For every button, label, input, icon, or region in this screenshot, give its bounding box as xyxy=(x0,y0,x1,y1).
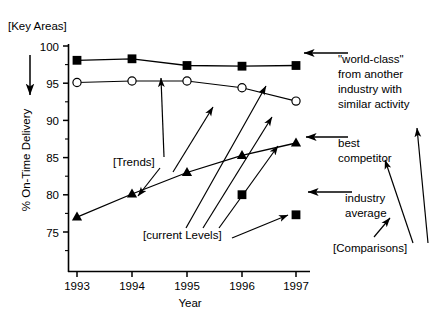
annotation-trends: [Trends] xyxy=(113,156,155,168)
annotation-industry-average: industry average xyxy=(345,192,387,219)
y-tick-label: 95 xyxy=(46,78,59,90)
series-world-class xyxy=(73,54,301,70)
series-line-best-competitor xyxy=(77,143,296,217)
data-point-marker xyxy=(73,78,81,86)
chart-svg: 100 95 90 85 80 75 1993 1994 1995 1996 1… xyxy=(0,0,439,314)
chart-figure: 100 95 90 85 80 75 1993 1994 1995 1996 1… xyxy=(0,0,439,314)
x-tick-labels: 1993 1994 1995 1996 1997 xyxy=(64,280,309,292)
data-point-marker xyxy=(183,77,191,85)
trends-arrow-up xyxy=(161,78,164,157)
annotation-key-areas: [Key Areas] xyxy=(8,20,67,32)
data-point-marker xyxy=(73,56,82,65)
x-tick-label: 1995 xyxy=(174,280,200,292)
data-point-marker xyxy=(292,210,301,219)
best-competitor-line-2: competitor xyxy=(338,152,392,164)
trends-arrow-down xyxy=(138,168,160,196)
y-tick-label: 85 xyxy=(46,152,59,164)
x-axis-title: Year xyxy=(178,297,201,309)
trends-arrow-right xyxy=(173,107,213,172)
annotation-best-competitor: best competitor xyxy=(338,137,392,164)
series-industry-average xyxy=(238,190,301,219)
industry-average-line-2: average xyxy=(345,207,387,219)
world-class-line-2: from another xyxy=(338,68,403,80)
y-tick-label: 75 xyxy=(46,227,59,239)
y-tick-labels: 100 95 90 85 80 75 xyxy=(40,41,59,239)
y-tick-label: 100 xyxy=(40,41,59,53)
data-point-marker xyxy=(128,77,136,85)
data-point-marker xyxy=(292,97,300,105)
world-class-line-3: industry with xyxy=(338,83,402,95)
world-class-line-1: "world-class" xyxy=(338,53,404,65)
y-tick-label: 80 xyxy=(46,189,59,201)
x-tick-label: 1993 xyxy=(64,280,90,292)
current-levels-leaders xyxy=(186,86,288,238)
y-axis-title: % On-Time Delivery xyxy=(20,109,32,212)
best-competitor-line-1: best xyxy=(338,137,361,149)
comparisons-leaders xyxy=(374,128,428,243)
x-tick-label: 1997 xyxy=(283,280,309,292)
data-point-marker xyxy=(291,138,301,147)
data-point-marker xyxy=(128,54,137,63)
industry-average-line-1: industry xyxy=(345,192,386,204)
data-point-marker xyxy=(292,61,301,70)
annotation-world-class: "world-class" from another industry with… xyxy=(338,53,410,110)
annotation-current-levels: [current Levels] xyxy=(143,229,222,241)
world-class-line-4: similar activity xyxy=(338,98,410,110)
x-tick-label: 1994 xyxy=(119,280,145,292)
x-tick-label: 1996 xyxy=(229,280,255,292)
series-open-circle xyxy=(73,77,300,105)
annotation-comparisons: [Comparisons] xyxy=(333,242,407,254)
data-point-marker xyxy=(238,84,246,92)
y-tick-label: 90 xyxy=(46,115,59,127)
data-point-marker xyxy=(183,61,192,70)
data-point-marker xyxy=(238,62,247,71)
